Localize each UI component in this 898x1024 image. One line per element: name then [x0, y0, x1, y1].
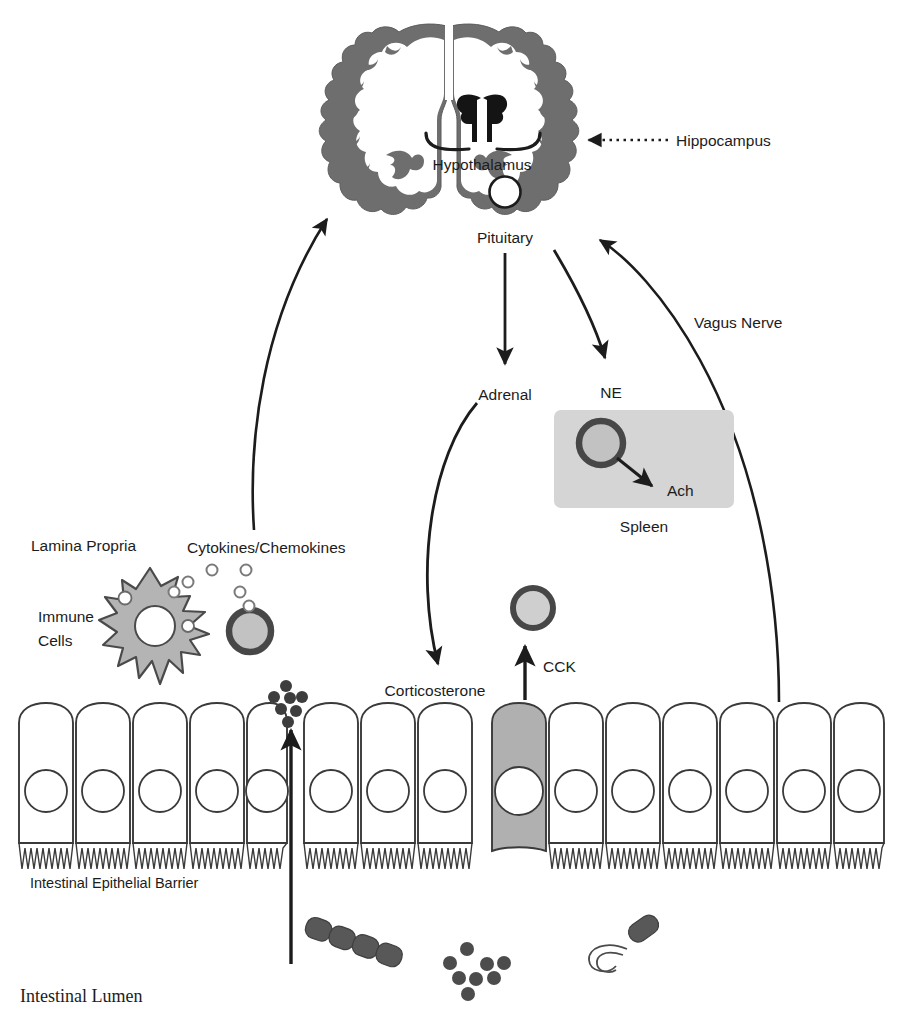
macrophage-vacuole-1: [119, 592, 132, 605]
cytokine-dot: [207, 565, 218, 576]
spleen-immune-cell: [579, 421, 623, 465]
epithelial-cell: [19, 703, 73, 869]
cytokines-to-brain-arrow: [253, 219, 327, 530]
spleen-box-rect: [554, 410, 734, 508]
bacteria-dot: [275, 703, 287, 715]
bacteria-dot: [296, 691, 308, 703]
intestinal-epithelial-barrier-label: Intestinal Epithelial Barrier: [30, 875, 199, 891]
epithelial-cell: [777, 703, 831, 869]
enteroendocrine-cell: [492, 703, 546, 851]
diagram-canvas: Hypothalamus Pituitary Hippocampus Adren…: [0, 0, 898, 1024]
interhemispheric-fissure: [445, 24, 453, 100]
cck-vesicle-cell: [513, 588, 553, 628]
brain-coronal-section: Hypothalamus Pituitary: [319, 24, 579, 246]
flagellum: [589, 945, 627, 971]
coccus-cluster: [443, 942, 511, 1001]
cytokine-dot: [244, 601, 255, 612]
epithelial-cell: [663, 703, 717, 869]
coccus: [461, 987, 475, 1001]
vagus-nerve-label: Vagus Nerve: [694, 314, 782, 331]
cck-label: CCK: [543, 658, 576, 675]
epithelial-cell: [418, 703, 472, 869]
hippocampus-label: Hippocampus: [676, 132, 771, 149]
immune-cells-label-line2: Cells: [38, 632, 73, 649]
epithelial-cell: [361, 703, 415, 869]
coccus: [443, 956, 457, 970]
bacteria-dot: [268, 691, 280, 703]
epithelial-cell: [133, 703, 187, 869]
lymphocyte-immune-cell: [229, 610, 271, 652]
epithelial-cell: [834, 703, 884, 869]
pituitary-gland: [490, 177, 521, 208]
coccus: [487, 971, 501, 985]
gut-brain-axis-figure: Hypothalamus Pituitary Hippocampus Adren…: [0, 0, 898, 1024]
cytokines-chemokines-label: Cytokines/Chemokines: [187, 539, 346, 556]
rod-chain-bacterium: [303, 915, 405, 969]
coccus: [452, 971, 466, 985]
epithelial-cell: [246, 703, 288, 869]
intestinal-epithelium: [19, 703, 884, 869]
immune-cells-label-line1: Immune: [38, 608, 94, 625]
ne-label: NE: [600, 384, 622, 401]
epithelial-cell: [720, 703, 774, 869]
flagellated-rod-bacterium: [589, 912, 662, 972]
epithelial-cell: [190, 703, 244, 869]
coccus: [497, 956, 511, 970]
lamina-propria-label: Lamina Propria: [31, 537, 136, 554]
epithelial-cell: [606, 703, 660, 869]
bacteria-dot: [284, 692, 296, 704]
coccus: [469, 972, 483, 986]
spleen-box: Ach: [554, 410, 734, 508]
macrophage-vacuole-2: [182, 620, 194, 632]
bacteria-dot: [280, 680, 292, 692]
cytokine-dot: [235, 587, 246, 598]
hypothalamus-label: Hypothalamus: [432, 156, 531, 173]
pituitary-label: Pituitary: [477, 229, 533, 246]
ach-label: Ach: [667, 482, 694, 499]
corticosterone-label: Corticosterone: [385, 682, 486, 699]
cytokine-dot: [183, 577, 194, 588]
adrenal-to-corticosterone-arrow: [427, 403, 477, 664]
macrophage-nucleus: [135, 606, 175, 646]
pituitary-to-ne-arrow: [554, 250, 605, 358]
cytokine-dot: [241, 565, 252, 576]
bacteria-dot: [282, 716, 294, 728]
coccus: [460, 942, 474, 956]
intestinal-lumen-label: Intestinal Lumen: [20, 986, 142, 1006]
adrenal-label: Adrenal: [478, 386, 531, 403]
spleen-label: Spleen: [620, 518, 668, 535]
bacteria-dot: [290, 705, 302, 717]
epithelial-cell: [549, 703, 603, 869]
cytokine-dot: [169, 587, 180, 598]
flagellum-secondary: [597, 953, 623, 972]
epithelial-cell: [76, 703, 130, 869]
epithelial-cell: [304, 703, 358, 869]
coccus: [480, 957, 494, 971]
